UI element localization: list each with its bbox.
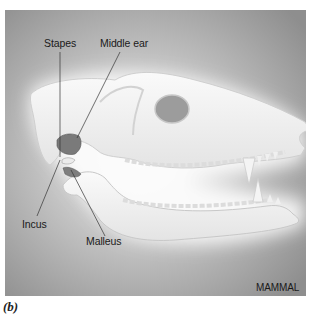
middle-ear-label: Middle ear <box>100 37 148 49</box>
eye-orbit <box>155 95 189 123</box>
stapes-label: Stapes <box>44 37 76 49</box>
incus-label: Incus <box>22 218 47 230</box>
diagram-panel: Stapes Middle ear Incus Malleus MAMMAL <box>5 10 306 296</box>
figure-caption: (b) <box>3 299 18 315</box>
malleus-label: Malleus <box>86 235 121 247</box>
mammal-skull-illustration <box>5 10 306 296</box>
organism-label: MAMMAL <box>256 282 299 294</box>
